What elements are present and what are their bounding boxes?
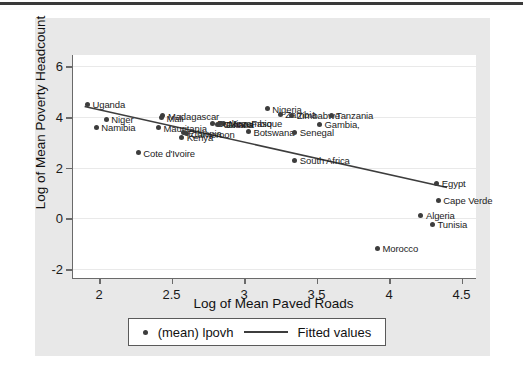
scatter-point-label: Namibia [101,122,135,133]
y-tick-label: 0 [56,211,63,226]
x-tick-mark [389,278,391,284]
plot-area: 6420-2 22.533.544.5 UgandaNigerNamibiaCo… [72,55,476,279]
x-tick-mark [244,278,246,284]
scatter-point-label: Cote d'Ivoire [143,147,195,158]
y-tick-label: 4 [56,110,63,125]
scatter-point [329,113,334,118]
legend-marker-dot-icon [143,330,148,335]
legend-marker-line-icon [244,331,288,333]
y-tick-mark [66,218,72,220]
y-tick-mark [66,66,72,68]
scatter-point [136,150,141,155]
y-tick-label: -2 [51,262,63,277]
x-tick-mark [99,278,101,284]
legend-label-fit: Fitted values [298,325,372,340]
y-tick-mark [66,168,72,170]
scatter-point-label: South Africa [300,155,350,166]
y-axis-title: Log of Mean Poverty Headcount [33,0,48,233]
scatter-point [436,198,441,203]
scatter-point-label: Uganda [92,99,125,110]
scatter-point [317,122,322,127]
scatter-point-label: Gambia, [324,119,359,130]
scatter-point [210,121,215,126]
scatter-point [278,112,283,117]
chart-legend: (mean) lpovh Fitted values [128,318,386,346]
scatter-point [94,125,99,130]
page-top-rule [0,2,523,5]
x-tick-mark [317,278,319,284]
x-tick-mark [462,278,464,284]
scatter-point [375,246,380,251]
scatter-point-label: Tunisia [438,219,468,230]
y-tick-mark [66,269,72,271]
scatter-point-label: Kenya [187,132,213,143]
figure-canvas: 6420-2 22.533.544.5 UgandaNigerNamibiaCo… [0,0,523,368]
scatter-point [430,222,435,227]
scatter-point-label: Egypt [442,178,466,189]
scatter-point [292,158,297,163]
x-axis-title: Log of Mean Paved Roads [72,296,475,311]
legend-label-series: (mean) lpovh [158,325,234,340]
y-tick-label: 6 [56,59,63,74]
y-tick-mark [66,117,72,119]
y-tick-label: 2 [56,160,63,175]
scatter-point-label: Botswana [253,126,294,137]
scatter-point-label: Cape Verde [443,195,492,206]
x-tick-mark [172,278,174,284]
scatter-point [159,115,164,120]
scatter-point-label: Guinea [223,119,253,130]
scatter-point-label: Morocco [382,243,418,254]
scatter-point [85,102,90,107]
